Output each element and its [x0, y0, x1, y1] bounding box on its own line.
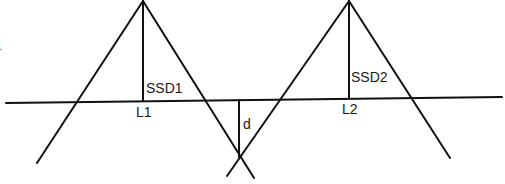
l2-label: L2 — [342, 101, 358, 117]
ssd1-label: SSD1 — [146, 80, 183, 96]
ssd-diagram: SSD1 L1 SSD2 L2 d 1 — [0, 0, 505, 184]
cone1-left-edge — [37, 1, 143, 163]
l1-label: L1 — [136, 104, 152, 120]
cropped-edge-glyph: 1 — [0, 37, 3, 53]
cone2-left-edge — [227, 1, 349, 176]
ssd2-label: SSD2 — [351, 69, 388, 85]
d-label: d — [243, 116, 251, 132]
